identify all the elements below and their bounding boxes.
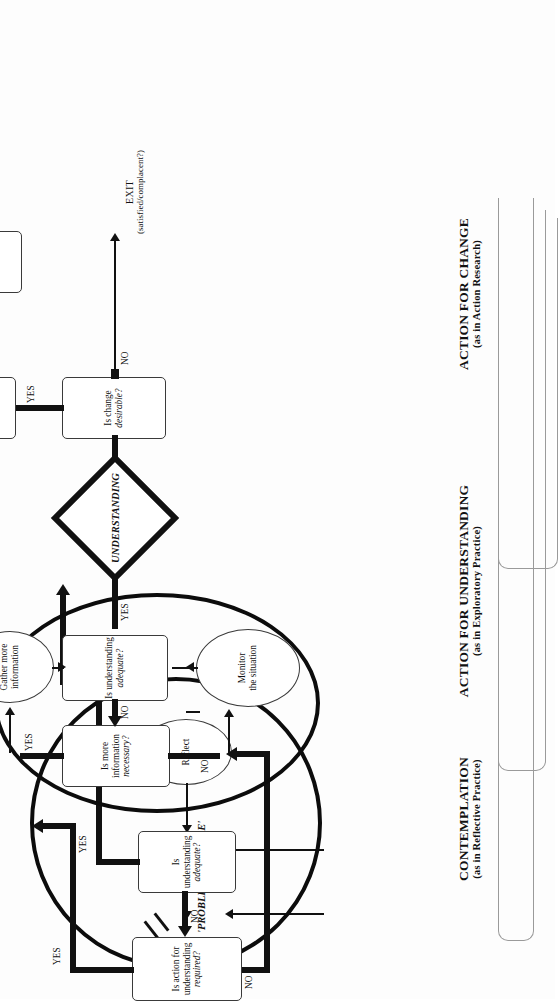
edge-label-no: NO (120, 352, 130, 365)
edge-arrowhead (58, 662, 66, 672)
edge-yes-desirable-riser (14, 405, 64, 411)
edge-no-moreinfo-across (228, 713, 230, 753)
edge-arrowhead (110, 233, 120, 241)
node-label-line: Is action for (171, 943, 182, 996)
section-title: ACTION FOR CHANGE (456, 179, 471, 409)
section-subtitle: (as in Exploratory Practice) (471, 451, 483, 731)
node-label-line: understanding (182, 943, 193, 996)
edge-arrowhead (178, 926, 192, 937)
edge-diamond-to-desirable (112, 435, 118, 459)
edge-label-no: NO (200, 760, 210, 773)
edge-monitor-to-adequate2 (186, 711, 200, 713)
edge-monitor-up (172, 667, 198, 669)
exit-note: (satisfied/complacent?) (135, 127, 145, 257)
edge-yes-understanding-riser (96, 859, 140, 865)
edge-label-yes: YES (26, 385, 36, 403)
node-label-line: Is understanding (171, 832, 193, 892)
edge-yes-moreinfo-across (9, 711, 11, 753)
node-is-understanding-adequate-2: Is understanding adequate? (62, 635, 168, 701)
edge-yes-action-riser (70, 967, 134, 973)
edge-arrowhead (56, 584, 70, 595)
node-monitor-the-situation: Monitor the situation (196, 629, 300, 707)
edge-no-moreinfo-riser (168, 753, 220, 759)
node-label-line: Monitor (237, 645, 248, 691)
node-label-line: the situation (248, 645, 259, 691)
node-label-line: adequate? (192, 832, 203, 892)
edge-arrowhead (5, 707, 15, 715)
section-header-understanding: ACTION FOR UNDERSTANDING (as in Explorat… (456, 451, 483, 731)
edge-label-no: NO (120, 706, 130, 719)
edge-no-to-is-action-required (182, 891, 188, 927)
bracket-change (498, 218, 558, 569)
edge-label-yes: YES (52, 947, 62, 965)
node-label-line: information (10, 644, 21, 691)
edge-arrowhead (32, 819, 43, 833)
edge-no-desirable-exit (114, 237, 116, 377)
edge-label-no: NO (190, 910, 200, 923)
exit-satisfied-complacent-1: EXIT (satisfied/complacent?) (124, 127, 145, 257)
edge-no-adq2-to-moreinfo (112, 699, 118, 717)
edge-no-desirable-stub (111, 369, 119, 379)
edge-yes-action-up2 (40, 823, 74, 829)
edge-label-yes: YES (78, 835, 88, 853)
section-header-contemplation: CONTEMPLATION (as in Reflective Practice… (456, 709, 483, 929)
edge-label-yes: YES (120, 603, 130, 621)
node-is-understanding-adequate-1: Is understanding adequate? (138, 831, 236, 893)
exit-label: EXIT (124, 127, 135, 257)
section-title: CONTEMPLATION (456, 709, 471, 929)
section-title: ACTION FOR UNDERSTANDING (456, 451, 471, 731)
section-subtitle: (as in Reflective Practice) (471, 709, 483, 929)
node-is-protest-appropriate: Is protest appropriate? (0, 231, 22, 293)
edge-arrowhead (224, 709, 234, 717)
edge-yes-action-across (70, 823, 76, 973)
node-is-more-information-necessary: Is more information necessary? (62, 725, 170, 787)
node-label-line: Is more information (100, 726, 122, 786)
edge-label-yes: YES (24, 733, 34, 751)
node-is-change-desirable: Is change desirable? (62, 377, 166, 439)
node-label-line: desirable? (114, 388, 125, 427)
diamond-understanding: UNDERSTANDING (50, 453, 180, 583)
edge-yes-adq2-to-diamond (112, 577, 118, 629)
node-label-line: Is understanding (104, 637, 115, 699)
node-is-change-possible: Is change possible? (0, 377, 16, 439)
node-label-line: required? (192, 943, 203, 996)
section-header-change: ACTION FOR CHANGE (as in Action Research… (456, 179, 483, 409)
node-is-action-for-understanding-required: Is action for understanding required? (132, 937, 242, 1001)
edge-label-no: NO (244, 976, 254, 989)
node-label-line: Is change (103, 388, 114, 427)
node-label-line: Gather more (0, 644, 10, 691)
node-label-line: necessary? (121, 726, 132, 786)
section-subtitle: (as in Action Research) (471, 179, 483, 409)
edge-yes-moreinfo-riser (20, 753, 64, 759)
node-label-line: adequate? (115, 637, 126, 699)
diamond-label: UNDERSTANDING (50, 453, 180, 583)
